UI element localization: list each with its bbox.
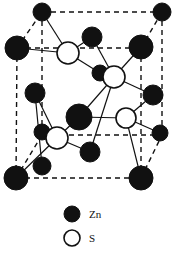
atom-zn-mid-right-face: [143, 85, 163, 105]
atom-s-upper-left: [57, 42, 79, 64]
atom-zn-center-large: [66, 104, 92, 130]
atom-zn-back-top-left: [33, 3, 51, 21]
zinc-blende-diagram: ZnS: [0, 0, 175, 261]
atom-s-lower-right: [116, 108, 136, 128]
atom-zn-back-bottom-mid: [33, 157, 51, 175]
crystal-structure-figure: ZnS: [0, 0, 175, 261]
atom-zn-front-top-right: [129, 35, 153, 59]
atom-zn-front-top-left: [5, 36, 29, 60]
cell-edge-edge-front-left: [16, 48, 17, 178]
atom-zn-top-mid-interior: [82, 27, 102, 47]
legend-label-s: S: [89, 232, 95, 244]
atom-zn-front-bottom-left: [4, 166, 28, 190]
atom-zn-front-bottom-right: [129, 166, 153, 190]
legend-label-zn: Zn: [89, 208, 102, 220]
legend: ZnS: [64, 206, 102, 246]
atom-zn-right-inner-lower: [152, 125, 168, 141]
atom-zn-mid-left-face: [25, 83, 45, 103]
atom-zn-bottom-mid: [80, 142, 100, 162]
atom-s-lower-left: [46, 127, 68, 149]
legend-marker-s: [64, 230, 80, 246]
atom-s-upper-right: [103, 66, 125, 88]
bond-s-upper-right-to-zn-bottom-mid: [90, 77, 114, 152]
legend-marker-zn: [64, 206, 80, 222]
atom-zn-back-top-right: [153, 3, 171, 21]
